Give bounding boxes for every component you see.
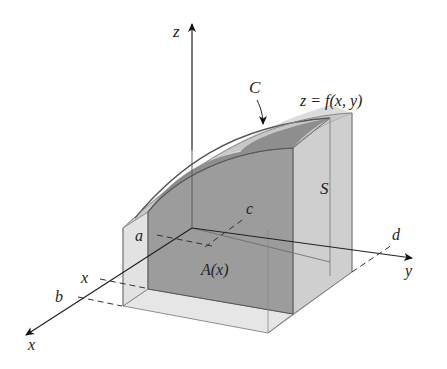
- cross-section-area: [148, 148, 293, 314]
- dashed-d: [352, 245, 392, 272]
- x-axis-label: x: [27, 336, 35, 353]
- c-pointer-arrow: [257, 100, 263, 124]
- x-tick-label: x: [80, 269, 88, 286]
- a-label: a: [135, 227, 143, 244]
- c-label: c: [246, 200, 253, 217]
- y-axis-label: y: [403, 262, 413, 280]
- surface-s-label: S: [320, 179, 329, 198]
- outer-right-face: [293, 113, 352, 314]
- area-label: A(x): [200, 261, 229, 279]
- dashed-b: [78, 297, 122, 306]
- b-label: b: [55, 288, 63, 305]
- z-axis-label: z: [172, 22, 180, 41]
- d-label: d: [392, 226, 401, 243]
- solid-cross-section-diagram: z z = f(x, y) C S c a A(x) d y x b x: [0, 0, 447, 369]
- curve-c-label: C: [249, 78, 261, 97]
- surface-equation-label: z = f(x, y): [299, 92, 362, 110]
